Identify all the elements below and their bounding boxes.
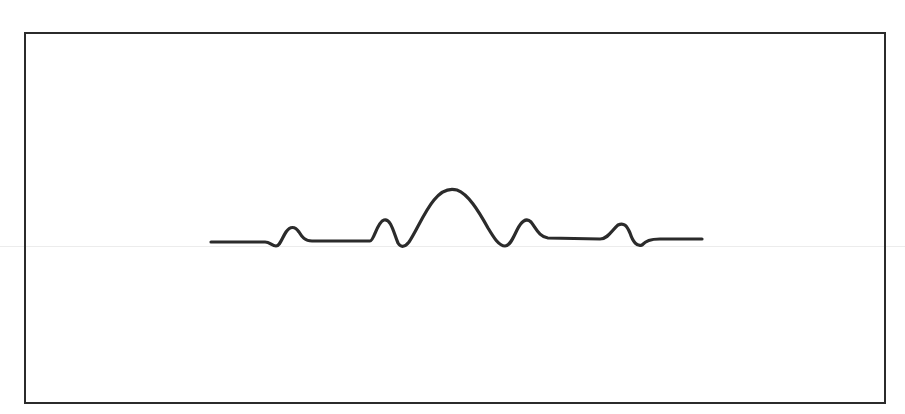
waveform-line	[211, 189, 702, 246]
waveform-diagram	[0, 0, 905, 414]
